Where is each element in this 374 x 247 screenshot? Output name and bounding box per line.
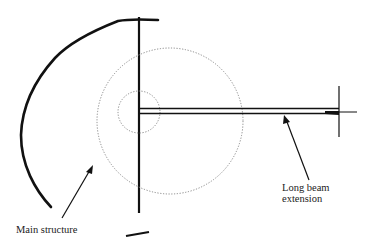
beam-label-line1: Long beam	[282, 182, 330, 193]
beam-extension-label: Long beam extension	[282, 182, 330, 204]
main-structure-outline	[21, 19, 158, 207]
main-structure-label: Main structure	[16, 224, 78, 235]
large-dotted-circle	[97, 48, 243, 194]
beam-label-line2: extension	[282, 193, 330, 204]
main-structure-label-text: Main structure	[16, 224, 78, 235]
main-structure-arrow-head	[86, 165, 93, 174]
beam-arrow-line	[287, 122, 309, 180]
structure-diagram	[0, 0, 374, 247]
base-bar	[126, 232, 149, 236]
beam-arrow-head	[283, 115, 290, 124]
beam-tip-fill	[325, 111, 339, 115]
main-structure-arrow-line	[62, 170, 90, 218]
